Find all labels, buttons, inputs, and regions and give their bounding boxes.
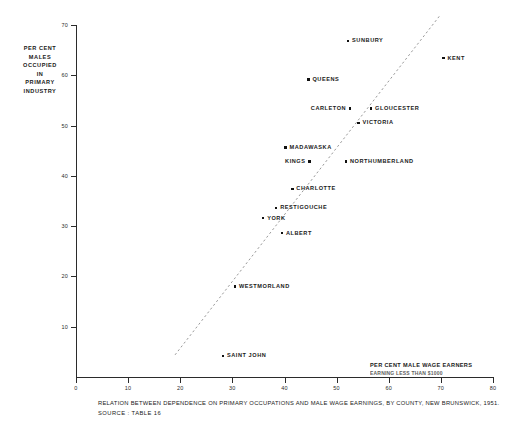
y-axis-title-line-4: PRIMARY bbox=[14, 78, 66, 87]
y-tick-40 bbox=[71, 176, 77, 177]
x-axis-title-main: PER CENT MALE WAGE EARNERS bbox=[370, 361, 498, 369]
x-axis-title-sub: EARNING LESS THAN $1000 bbox=[370, 369, 498, 377]
x-axis-title: PER CENT MALE WAGE EARNERS EARNING LESS … bbox=[370, 361, 498, 377]
data-point-marker bbox=[234, 285, 237, 288]
y-axis-title-line-2: OCCUPIED bbox=[14, 61, 66, 70]
x-tick-label-20: 20 bbox=[171, 385, 189, 391]
data-point-marker bbox=[345, 160, 348, 163]
x-tick-label-30: 30 bbox=[223, 385, 241, 391]
data-point-label: VICTORIA bbox=[363, 119, 394, 125]
y-tick-label-60: 60 bbox=[54, 72, 68, 78]
data-point-label: WESTMORLAND bbox=[239, 283, 290, 289]
data-point-label: ALBERT bbox=[286, 230, 312, 236]
y-tick-label-40: 40 bbox=[54, 173, 68, 179]
data-point-marker bbox=[284, 146, 287, 149]
y-axis-line bbox=[76, 25, 77, 377]
y-tick-label-70: 70 bbox=[54, 22, 68, 28]
data-point-marker bbox=[357, 122, 360, 125]
x-tick-40 bbox=[285, 377, 286, 383]
x-tick-label-70: 70 bbox=[432, 385, 450, 391]
chart-source: SOURCE : TABLE 16 bbox=[98, 410, 161, 416]
x-tick-label-10: 10 bbox=[119, 385, 137, 391]
data-point-marker bbox=[349, 107, 352, 110]
x-tick-80 bbox=[493, 377, 494, 383]
data-point-marker bbox=[442, 57, 445, 60]
data-point-marker bbox=[222, 355, 225, 358]
x-tick-label-50: 50 bbox=[328, 385, 346, 391]
y-axis-title-line-5: INDUSTRY bbox=[14, 87, 66, 96]
x-tick-50 bbox=[337, 377, 338, 383]
x-tick-label-60: 60 bbox=[380, 385, 398, 391]
scatter-chart: PER CENTMALESOCCUPIEDINPRIMARYINDUSTRY P… bbox=[0, 0, 510, 436]
data-point-marker bbox=[307, 78, 310, 81]
y-tick-50 bbox=[71, 126, 77, 127]
data-point-marker bbox=[308, 160, 311, 163]
data-point-label: CHARLOTTE bbox=[296, 185, 335, 191]
data-point-marker bbox=[291, 188, 294, 191]
y-axis-title-line-1: MALES bbox=[14, 53, 66, 62]
data-point-label: YORK bbox=[267, 215, 285, 221]
data-point-label: GLOUCESTER bbox=[375, 105, 419, 111]
data-point-label: NORTHUMBERLAND bbox=[350, 158, 414, 164]
x-tick-label-40: 40 bbox=[276, 385, 294, 391]
x-tick-20 bbox=[180, 377, 181, 383]
x-tick-0 bbox=[76, 377, 77, 383]
y-tick-label-30: 30 bbox=[54, 223, 68, 229]
y-tick-60 bbox=[71, 75, 77, 76]
y-tick-20 bbox=[71, 276, 77, 277]
x-tick-70 bbox=[441, 377, 442, 383]
data-point-label: CARLETON bbox=[311, 105, 346, 111]
y-tick-10 bbox=[71, 327, 77, 328]
data-point-marker bbox=[262, 217, 265, 220]
x-tick-label-0: 0 bbox=[67, 385, 85, 391]
y-tick-label-50: 50 bbox=[54, 123, 68, 129]
x-tick-60 bbox=[389, 377, 390, 383]
y-axis-title-line-0: PER CENT bbox=[14, 44, 66, 53]
data-point-label: SAINT JOHN bbox=[227, 352, 266, 358]
data-point-label: RESTIGOUCHE bbox=[280, 204, 327, 210]
data-point-marker bbox=[347, 40, 350, 43]
data-point-marker bbox=[281, 232, 284, 235]
data-point-label: MADAWASKA bbox=[290, 144, 332, 150]
chart-caption: RELATION BETWEEN DEPENDENCE ON PRIMARY O… bbox=[98, 398, 499, 408]
data-point-marker bbox=[370, 107, 373, 110]
y-tick-label-10: 10 bbox=[54, 324, 68, 330]
x-tick-30 bbox=[232, 377, 233, 383]
y-tick-label-20: 20 bbox=[54, 273, 68, 279]
data-point-label: KINGS bbox=[285, 158, 305, 164]
x-tick-10 bbox=[128, 377, 129, 383]
y-tick-70 bbox=[71, 25, 77, 26]
data-point-marker bbox=[275, 207, 278, 210]
data-point-label: SUNBURY bbox=[352, 37, 383, 43]
x-tick-label-80: 80 bbox=[484, 385, 502, 391]
data-point-label: QUEENS bbox=[312, 76, 339, 82]
y-tick-30 bbox=[71, 226, 77, 227]
y-axis-title: PER CENTMALESOCCUPIEDINPRIMARYINDUSTRY bbox=[14, 44, 66, 96]
data-point-label: KENT bbox=[447, 55, 464, 61]
